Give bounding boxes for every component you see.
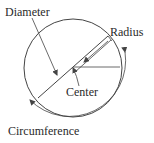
center-label: Center <box>66 86 98 98</box>
radius-pointer <box>84 41 108 62</box>
diameter-pointer <box>32 18 57 75</box>
radius-label: Radius <box>110 26 143 38</box>
circumference-label: Circumference <box>8 125 79 137</box>
circle-diagram: Diameter Radius Center Circumference <box>0 0 154 143</box>
diameter-label: Diameter <box>5 6 50 18</box>
circle-diagram-svg <box>0 0 154 143</box>
